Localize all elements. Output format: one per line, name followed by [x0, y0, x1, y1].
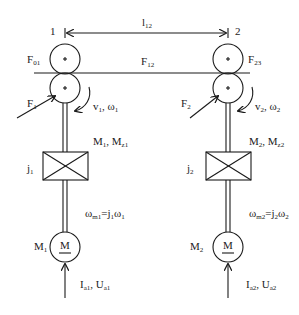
force-label-2: F2 — [181, 98, 191, 113]
station-index-1: 1 — [50, 26, 56, 37]
station-index-2: 2 — [235, 26, 241, 37]
gear-ratio-label-1: j1 — [27, 163, 34, 178]
input-label-1: Ia1, Ua1 — [80, 279, 110, 294]
torque-label-1: M1, Mz1 — [93, 136, 128, 151]
speed-label-1: v1, ω1 — [93, 101, 118, 116]
motor-label-1: M1 — [34, 241, 47, 256]
gear-ratio-label-2: j2 — [187, 163, 194, 178]
tension-out-label: F23 — [248, 54, 261, 69]
input-label-2: Ia2, Ua2 — [246, 279, 276, 294]
motor-speed-label-2: ωm2=j2ω2 — [249, 208, 289, 223]
torque-label-2: M2, Mz2 — [249, 136, 284, 151]
motor-speed-label-1: ωm1=j1ω1 — [85, 208, 125, 223]
dimension-label: l12 — [142, 17, 152, 32]
force-label-1: F1 — [27, 98, 37, 113]
motor-label-2: M2 — [190, 241, 203, 256]
rotation-arrow-1 — [75, 87, 90, 111]
rotation-arrow-2 — [238, 87, 253, 111]
force-arrow-2 — [190, 96, 218, 118]
station-2 — [190, 44, 253, 298]
web-force-label: F12 — [141, 56, 154, 71]
speed-label-2: v2, ω2 — [255, 101, 280, 116]
motor-symbol-1: M — [60, 240, 70, 251]
diagram-canvas — [0, 0, 299, 315]
motor-symbol-2: M — [223, 240, 233, 251]
tension-in-label: F01 — [27, 54, 40, 69]
